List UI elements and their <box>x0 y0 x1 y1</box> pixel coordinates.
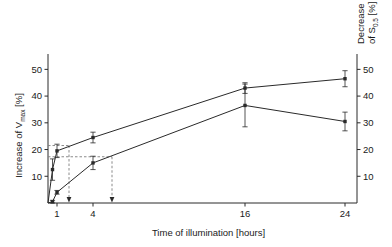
y-tick-label-right: 10 <box>363 171 374 182</box>
y-axis-title-left-subscript: max <box>19 109 26 122</box>
x-tick-label: 1 <box>54 208 59 219</box>
annotation-arrowhead <box>67 197 72 203</box>
svg-text:of S0.5 [%]: of S0.5 [%] <box>366 2 379 44</box>
series-line <box>48 79 345 203</box>
y-tick-label-right: 40 <box>363 90 374 101</box>
y-axis-title-left: Increase of Vmax [%] <box>13 93 26 178</box>
y-tick-label-right: 20 <box>363 144 374 155</box>
y-axis-title-right: Decrease <box>355 3 366 44</box>
y-tick-label-right: 30 <box>363 117 374 128</box>
y-tick-label-left: 30 <box>31 117 42 128</box>
data-point-marker <box>51 200 54 203</box>
data-point-marker <box>91 136 94 139</box>
y-axis-title-right-line2: of S <box>366 27 377 44</box>
x-axis-title: Time of illumination [hours] <box>152 227 265 238</box>
y-axis-title-right-subscript: 0.5 <box>372 18 379 27</box>
x-tick-label: 4 <box>90 208 95 219</box>
data-point-marker <box>55 149 58 152</box>
data-point-marker <box>243 104 246 107</box>
data-point-marker <box>55 191 58 194</box>
chart-figure: 10203040501020304050141624Increase of Vm… <box>0 0 392 247</box>
data-point-marker <box>343 120 346 123</box>
y-tick-label-left: 40 <box>31 90 42 101</box>
data-point-marker <box>91 161 94 164</box>
y-axis-title-right: of S0.5 [%] <box>366 2 379 44</box>
data-point-marker <box>343 77 346 80</box>
y-axis-title-right-unit: [%] <box>366 2 377 18</box>
x-tick-label: 24 <box>340 208 351 219</box>
line-chart: 10203040501020304050141624Increase of Vm… <box>0 0 392 247</box>
y-tick-label-left: 50 <box>31 64 42 75</box>
y-tick-label-right: 50 <box>363 64 374 75</box>
svg-text:Decrease: Decrease <box>355 3 366 44</box>
annotation-arrowhead <box>110 197 115 203</box>
svg-text:Increase of Vmax [%]: Increase of Vmax [%] <box>13 93 26 178</box>
data-point-marker <box>51 168 54 171</box>
y-tick-label-left: 10 <box>31 171 42 182</box>
y-axis-title-left-main: Increase of V <box>13 121 24 178</box>
y-tick-label-left: 20 <box>31 144 42 155</box>
series-line <box>48 105 345 203</box>
x-tick-label: 16 <box>240 208 251 219</box>
y-axis-title-left-unit: [%] <box>13 93 24 109</box>
y-axis-title-right-line1: Decrease <box>355 3 366 44</box>
